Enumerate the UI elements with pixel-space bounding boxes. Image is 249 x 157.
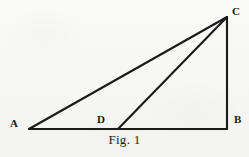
figure-caption: Fig. 1 [0,132,249,147]
segment-DC [118,17,227,129]
vertex-label-b: B [234,114,242,125]
segment-AC [29,17,227,129]
vertex-label-c: C [232,6,240,17]
figure-container: A D B C Fig. 1 [0,0,249,157]
vertex-label-a: A [10,118,18,129]
vertex-label-d: D [97,114,105,125]
